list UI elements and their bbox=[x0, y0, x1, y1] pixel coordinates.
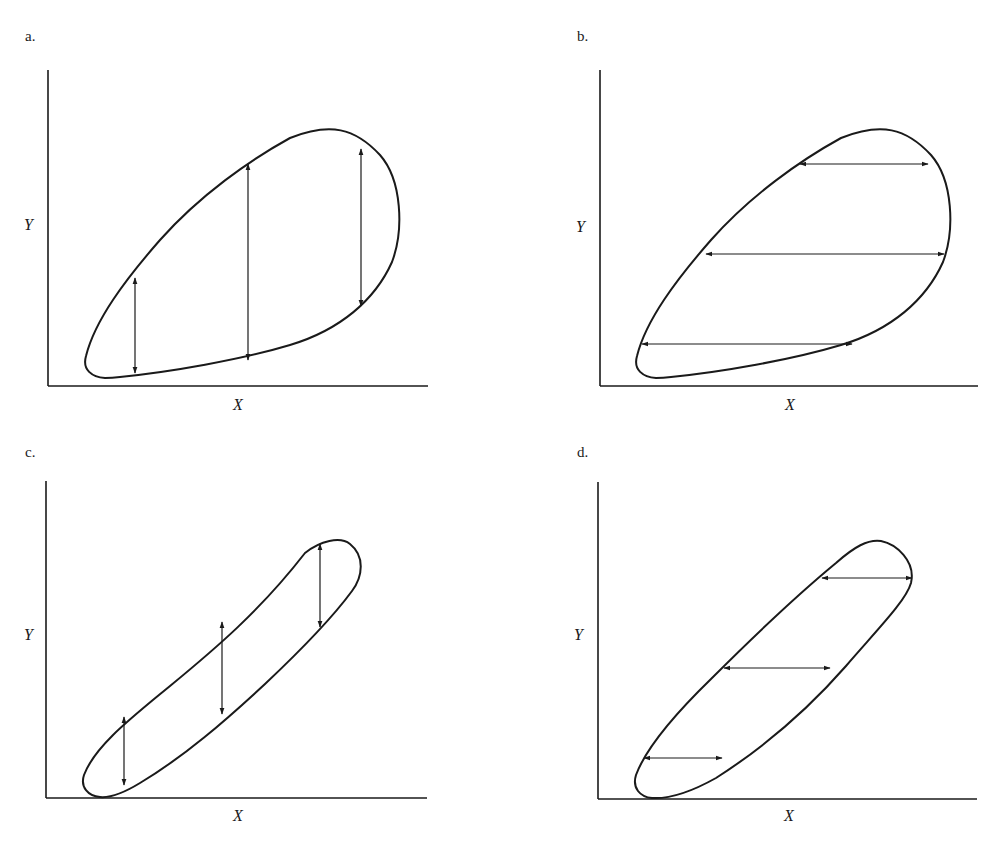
axes bbox=[598, 482, 977, 799]
scatter-plot bbox=[0, 0, 496, 421]
panel-a: a. Y X bbox=[0, 0, 496, 421]
scatter-plot bbox=[0, 421, 496, 842]
data-envelope bbox=[85, 129, 399, 378]
scatter-plot bbox=[496, 0, 992, 421]
axes bbox=[46, 481, 427, 798]
panel-c: c. Y X bbox=[0, 421, 496, 842]
axes bbox=[48, 70, 428, 386]
axes bbox=[600, 70, 978, 386]
scatter-plot bbox=[496, 421, 992, 842]
panel-d: d. Y X bbox=[496, 421, 992, 842]
panel-b: b. Y X bbox=[496, 0, 992, 421]
data-envelope bbox=[635, 541, 912, 798]
